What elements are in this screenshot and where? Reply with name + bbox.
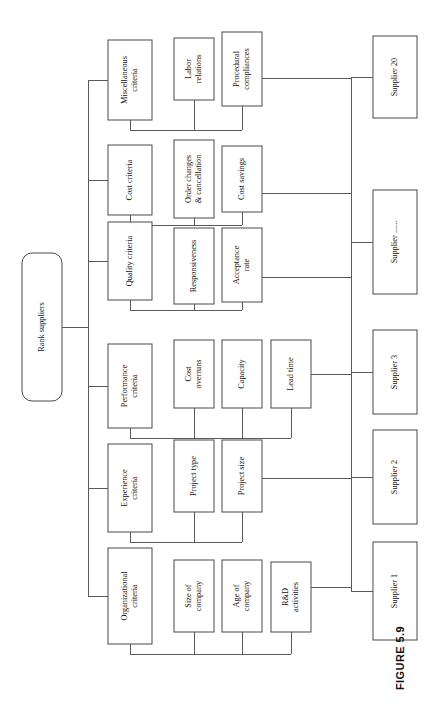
criteria-node-organizational[interactable]: Organizationalcriteria xyxy=(108,548,152,644)
supplier-node-supplier-2-label-line-0: Supplier 2 xyxy=(390,460,399,494)
criteria-node-cost-label-line-0: Cost criteria xyxy=(125,159,134,200)
supplier-node-supplier-20[interactable]: Supplier 20 xyxy=(373,36,417,118)
supplier-node-supplier-ellipsis-label-line-0: Supplier ...... xyxy=(390,221,399,264)
subcriteria-node-responsiveness[interactable]: Responsiveness xyxy=(174,228,214,304)
supplier-node-supplier-2[interactable]: Supplier 2 xyxy=(373,430,417,524)
criteria-node-experience-label-line-1: criteria xyxy=(130,476,139,500)
criteria-node-miscellaneous-label-line-1: criteria xyxy=(130,68,139,92)
subcriteria-node-labor-relations-label-line-0: Labor xyxy=(184,59,193,79)
criteria-node-organizational-label-line-0: Organizational xyxy=(120,571,129,621)
criteria-node-performance-label-line-1: criteria xyxy=(130,374,139,398)
subcriteria-node-lead-time-label-line-0: Lead time xyxy=(286,357,295,391)
supplier-node-supplier-20-label-line-0: Supplier 20 xyxy=(390,58,399,97)
supplier-node-supplier-3-label-line-0: Supplier 3 xyxy=(390,355,399,389)
criteria-node-performance[interactable]: Performancecriteria xyxy=(108,344,152,428)
subcriteria-node-procedural-compliances[interactable]: Proceduralcompliances xyxy=(222,32,262,106)
subcriteria-node-age-of-company-label-line-0: Age of xyxy=(232,584,241,607)
subcriteria-node-cost-overruns[interactable]: Costoverruns xyxy=(174,340,214,408)
subcriteria-node-project-size-label-line-0: Project size xyxy=(237,456,246,495)
diagram-nodes-group: Rank suppliersOrganizationalcriteriaSize… xyxy=(22,32,417,644)
subcriteria-node-age-of-company-label-line-1: company xyxy=(242,580,251,611)
subcriteria-node-cost-savings[interactable]: Cost savings xyxy=(222,146,262,212)
criteria-node-experience-label-line-0: Experience xyxy=(120,469,129,507)
subcriteria-node-cost-overruns-label-line-0: Cost xyxy=(184,366,193,382)
subcriteria-node-acceptance-rate-label-line-0: Acceptance xyxy=(232,245,241,284)
subcriteria-node-responsiveness-label-line-0: Responsiveness xyxy=(189,240,198,293)
subcriteria-node-labor-relations-label-line-1: relations xyxy=(194,55,203,84)
subcriteria-node-procedural-compliances-label-line-1: compliances xyxy=(242,48,251,89)
criteria-node-quality[interactable]: Quality criteria xyxy=(108,222,152,300)
subcriteria-node-project-type-label-line-0: Project type xyxy=(189,456,198,496)
supplier-node-supplier-1-label-line-0: Supplier 1 xyxy=(390,574,399,608)
criteria-node-cost[interactable]: Cost criteria xyxy=(108,145,152,215)
figure-page: Rank suppliersOrganizationalcriteriaSize… xyxy=(0,0,439,704)
subcriteria-node-size-of-company[interactable]: Size ofcompany xyxy=(174,560,214,632)
subcriteria-node-labor-relations[interactable]: Laborrelations xyxy=(174,38,214,100)
subcriteria-node-cost-savings-label-line-0: Cost savings xyxy=(237,158,246,200)
subcriteria-node-age-of-company[interactable]: Age ofcompany xyxy=(222,560,262,632)
subcriteria-node-size-of-company-label-line-0: Size of xyxy=(184,584,193,608)
subcriteria-node-size-of-company-label-line-1: company xyxy=(194,580,203,611)
root-node-rank-suppliers-label-line-0: Rank suppliers xyxy=(37,302,46,352)
subcriteria-node-rd-activities-label-line-0: R&D xyxy=(281,588,290,606)
root-node-rank-suppliers[interactable]: Rank suppliers xyxy=(22,253,62,401)
figure-caption: FIGURE 5.9 xyxy=(394,626,406,690)
criteria-node-quality-label-line-0: Quality criteria xyxy=(125,235,134,286)
subcriteria-node-order-changes-cancellation-label-line-1: & cancellation xyxy=(194,154,203,203)
criteria-node-experience[interactable]: Experiencecriteria xyxy=(108,444,152,532)
subcriteria-node-order-changes-cancellation-label-line-0: Order changes xyxy=(184,155,193,203)
supplier-node-supplier-1[interactable]: Supplier 1 xyxy=(373,542,417,640)
criteria-node-miscellaneous[interactable]: Miscellaneouscriteria xyxy=(108,40,152,120)
subcriteria-node-capacity-label-line-0: Capacity xyxy=(237,358,246,388)
subcriteria-node-cost-overruns-label-line-1: overruns xyxy=(194,359,203,388)
hierarchy-diagram: Rank suppliersOrganizationalcriteriaSize… xyxy=(0,0,439,704)
subcriteria-node-acceptance-rate[interactable]: Acceptancerate xyxy=(222,228,262,302)
criteria-node-miscellaneous-label-line-0: Miscellaneous xyxy=(120,56,129,104)
criteria-node-organizational-label-line-1: criteria xyxy=(130,584,139,608)
subcriteria-node-capacity[interactable]: Capacity xyxy=(222,340,262,408)
subcriteria-node-acceptance-rate-label-line-1: rate xyxy=(242,258,251,271)
subcriteria-node-rd-activities-label-line-1: activities xyxy=(291,582,300,612)
subcriteria-node-project-size[interactable]: Project size xyxy=(222,440,262,512)
subcriteria-node-procedural-compliances-label-line-0: Procedural xyxy=(232,50,241,87)
supplier-node-supplier-ellipsis[interactable]: Supplier ...... xyxy=(373,190,417,294)
subcriteria-node-rd-activities[interactable]: R&Dactivities xyxy=(271,562,311,632)
subcriteria-node-lead-time[interactable]: Lead time xyxy=(271,340,311,408)
subcriteria-node-project-type[interactable]: Project type xyxy=(174,440,214,512)
criteria-node-performance-label-line-0: Performance xyxy=(120,364,129,407)
subcriteria-node-order-changes-cancellation[interactable]: Order changes& cancellation xyxy=(174,140,214,218)
supplier-node-supplier-3[interactable]: Supplier 3 xyxy=(373,330,417,414)
